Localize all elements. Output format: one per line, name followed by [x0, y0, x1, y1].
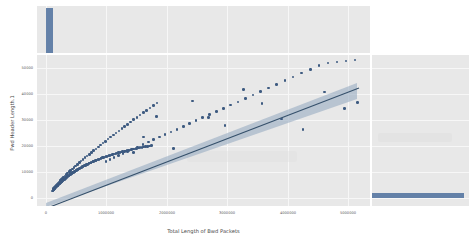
scatter-point — [195, 119, 198, 122]
x-tick-label: 0 — [26, 211, 66, 215]
scatter-point — [201, 116, 204, 119]
x-tick-label: 1000000 — [86, 211, 126, 215]
scatter-point — [164, 133, 167, 136]
scatter-point — [215, 110, 218, 113]
marginal-histogram-x — [37, 6, 370, 53]
scatter-point — [129, 121, 132, 124]
scatter-point — [302, 128, 305, 131]
scatter-point — [118, 130, 121, 133]
scatter-point — [182, 125, 185, 128]
scatter-point — [150, 144, 153, 147]
scatter-point — [280, 118, 283, 121]
x-tick-label: 2000000 — [147, 211, 187, 215]
y-axis-title: Fwd Header Length.1 — [9, 78, 15, 168]
y-tick-label: 0 — [6, 196, 33, 200]
scatter-point — [132, 118, 135, 121]
marginal-histogram-y — [372, 55, 469, 206]
figure-canvas: 50000 40000 30000 20000 10000 0 0 100000… — [0, 0, 469, 247]
scatter-point — [327, 62, 330, 65]
scatter-points — [37, 55, 370, 206]
scatter-point — [107, 138, 110, 141]
scatter-point — [244, 97, 247, 100]
scatter-point — [172, 147, 175, 150]
scatter-point — [152, 138, 155, 141]
scatter-point — [207, 116, 210, 119]
scatter-point — [309, 68, 312, 71]
scatter-point — [292, 76, 295, 79]
scatter-point — [224, 124, 227, 127]
scatter-point — [259, 90, 262, 93]
scatter-point — [113, 156, 116, 159]
scatter-point — [323, 91, 326, 94]
scatter-point — [136, 116, 139, 119]
scatter-point — [149, 107, 152, 110]
scatter-point — [237, 101, 240, 104]
x-axis-title: Total Length of Bwd Packets — [37, 228, 370, 234]
y-tick-label: 10000 — [6, 170, 33, 174]
marginal-x-bar — [46, 8, 53, 53]
scatter-point — [112, 134, 115, 137]
scatter-point — [122, 152, 125, 155]
x-tick-label: 4000000 — [268, 211, 308, 215]
scatter-point — [124, 150, 127, 153]
scatter-point — [142, 111, 145, 114]
x-tick-label: 5000000 — [328, 211, 368, 215]
scatter-point — [99, 144, 102, 147]
scatter-point — [155, 115, 158, 118]
scatter-point — [147, 141, 150, 144]
scatter-point — [109, 158, 112, 161]
scatter-point — [158, 136, 161, 139]
scatter-point — [117, 154, 120, 157]
scatter-point — [152, 104, 155, 107]
y-tick-label: 50000 — [6, 66, 33, 70]
scatter-point — [170, 131, 173, 134]
scatter-point — [126, 123, 129, 126]
scatter-point — [109, 136, 112, 139]
scatter-point — [188, 122, 191, 125]
scatter-point — [156, 102, 159, 105]
scatter-point — [104, 140, 107, 143]
scatter-point — [229, 104, 232, 107]
scatter-point — [252, 94, 255, 97]
scatter-point — [354, 59, 357, 62]
scatter-point — [300, 72, 303, 75]
scatter-point — [126, 150, 129, 153]
scatter-point — [284, 79, 287, 82]
scatter-point — [222, 107, 225, 110]
scatter-point — [242, 88, 245, 91]
scatter-point — [145, 109, 148, 112]
scatter-point — [191, 100, 194, 103]
scatter-point — [356, 101, 359, 104]
scatter-point — [97, 146, 100, 149]
scatter-point — [345, 60, 348, 63]
x-tick-label: 3000000 — [207, 211, 247, 215]
scatter-point — [115, 132, 118, 135]
scatter-point — [318, 64, 321, 67]
scatter-point — [132, 151, 135, 154]
scatter-point — [176, 128, 179, 131]
scatter-point — [261, 102, 264, 105]
scatter-point — [336, 61, 339, 64]
scatter-point — [105, 160, 108, 163]
scatter-point — [267, 87, 270, 90]
joint-scatter-panel — [37, 55, 370, 206]
scatter-point — [95, 148, 98, 151]
scatter-point — [139, 114, 142, 117]
scatter-point — [275, 83, 278, 86]
marginal-y-bar — [372, 193, 464, 198]
scatter-point — [343, 107, 346, 110]
scatter-point — [142, 136, 145, 139]
scatter-point — [142, 143, 145, 146]
